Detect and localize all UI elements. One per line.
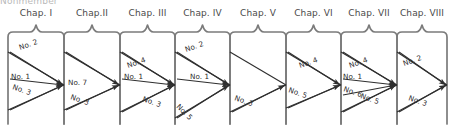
chapter-box-6 xyxy=(286,25,341,124)
flow-label-1-1: No. 2 xyxy=(18,37,39,52)
flow-label-3-2: No. 1 xyxy=(124,72,143,81)
flow-label-2-1: No. 7 xyxy=(68,78,87,87)
cross-chapter-line-9 xyxy=(230,52,286,85)
flow-label-4-3: No. 5 xyxy=(175,102,195,122)
chapter-boxes xyxy=(8,25,447,124)
chapter-flow-diagram: No. 2No. 1No. 3No. 7No. 3No. 4No. 1No. 3… xyxy=(0,0,455,127)
flow-label-6-2: No. 5 xyxy=(287,85,308,100)
flow-label-8-1: No. 2 xyxy=(402,53,423,68)
flow-label-7-2: No. 1 xyxy=(343,72,362,81)
flow-label-3-3: No. 3 xyxy=(141,94,162,109)
flow-label-1-2: No. 1 xyxy=(11,72,30,81)
chapter-box-2 xyxy=(64,25,120,124)
flow-label-1-3: No. 3 xyxy=(11,82,32,97)
flow-label-2-2: No. 3 xyxy=(69,92,90,107)
diagram-root: Nonmember Chap. IChap.IIChap. IIIChap. I… xyxy=(0,0,455,127)
flow-label-7-4: No. 5 xyxy=(359,91,380,106)
flow-label-4-1: No. 2 xyxy=(184,39,205,54)
flow-label-4-2: No. 1 xyxy=(190,72,209,81)
flow-label-6-1: No. 4 xyxy=(298,55,319,70)
